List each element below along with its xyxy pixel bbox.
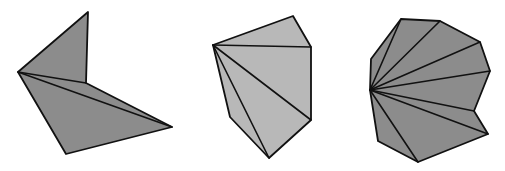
polygon-left [18,12,172,154]
polygon-left-outline [18,12,172,154]
triangulation-diagram [0,0,505,171]
polygon-right-outline [370,19,490,162]
polygon-middle [213,16,311,158]
polygon-right [370,19,490,162]
polygon-middle-outline [213,16,311,158]
